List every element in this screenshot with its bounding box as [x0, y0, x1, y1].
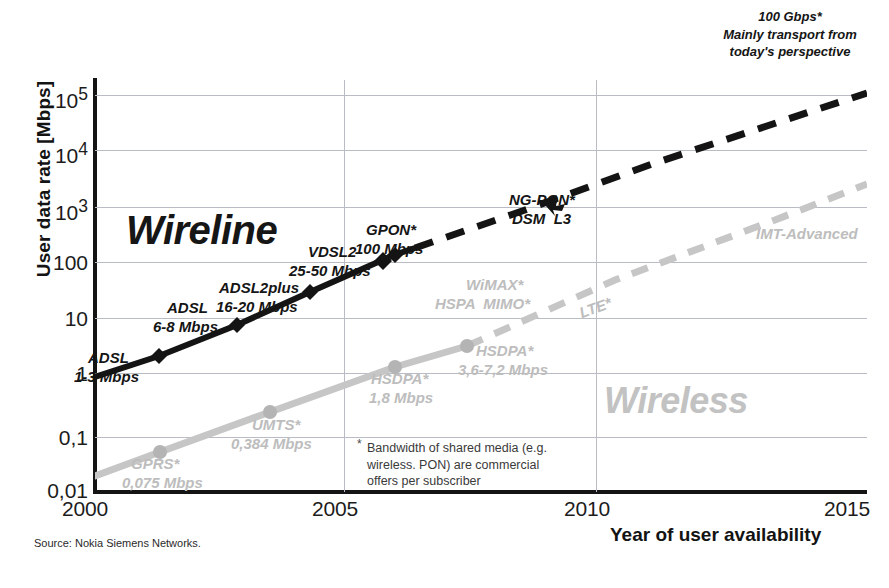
annotation-dsm-name: DSM L3 [512, 210, 571, 228]
x-tick-label-2000: 2000 [62, 497, 108, 521]
annotation-adsl-1-rate: 1-3 Mbps [74, 368, 139, 386]
top-right-line-2: Mainly transport from [700, 26, 880, 44]
annotation-vdsl2-name: VDSL2 [308, 243, 356, 261]
chart-figure: User data rate [Mbps] 105 104 103 100 10… [0, 0, 889, 588]
x-tick-label-2010: 2010 [564, 497, 610, 521]
annotation-gpon-rate: 100 Mbps [355, 240, 423, 258]
y-axis-title: User data rate [Mbps] [33, 29, 55, 329]
y-tick-label-100000: 105 [2, 84, 88, 113]
annotation-gprs-name: GPRS* [131, 455, 179, 473]
annotation-wimax-name: WiMAX* [466, 276, 523, 294]
footnote-asterisk: * [357, 437, 362, 451]
y-tick-label-1000: 103 [2, 196, 88, 225]
top-right-line-1: 100 Gbps* [700, 8, 880, 26]
y-tick-label-100: 100 [2, 251, 88, 275]
x-tick-label-2005: 2005 [312, 497, 358, 521]
annotation-adsl-2-rate: 6-8 Mbps [153, 318, 218, 336]
annotation-vdsl2-rate: 25-50 Mbps [289, 262, 371, 280]
annotation-hsdpa-1-name: HSDPA* [371, 370, 428, 388]
annotation-hspa-mimo-name: HSPA MIMO* [435, 295, 530, 313]
annotation-umts-rate: 0,384 Mbps [231, 435, 312, 453]
source-note: Source: Nokia Siemens Networks. [34, 537, 201, 549]
annotation-adsl2plus-rate: 16-20 Mbps [216, 298, 298, 316]
top-right-annotation: 100 Gbps* Mainly transport from today's … [700, 8, 880, 61]
annotation-umts-name: UMTS* [252, 416, 300, 434]
x-axis-title: Year of user availability [610, 524, 821, 546]
footnote-line-2: wireless. PON) are commercial [367, 457, 565, 474]
annotation-ngpon-name: NG-PON* [509, 191, 575, 209]
annotation-hsdpa-1-rate: 1,8 Mbps [369, 389, 433, 407]
annotation-imt-advanced-name: IMT-Advanced [756, 225, 858, 243]
y-tick-label-10000: 104 [2, 139, 88, 168]
wireless-watermark-label: Wireless [604, 380, 748, 422]
annotation-gpon-name: GPON* [366, 221, 416, 239]
plot-area: ADSL 1-3 Mbps ADSL 6-8 Mbps ADSL2plus 16… [95, 80, 867, 492]
x-tick-label-2015: 2015 [824, 497, 870, 521]
y-tick-label-0-1: 0,1 [2, 426, 88, 450]
marker-adsl-1-3 [151, 348, 167, 364]
annotation-adsl-2-name: ADSL [167, 299, 208, 317]
footnote-line-1: Bandwidth of shared media (e.g. [367, 440, 565, 457]
wireline-watermark-label: Wireline [126, 208, 277, 253]
footnote-line-3: offers per subscriber [367, 473, 565, 490]
annotation-gprs-rate: 0,075 Mbps [122, 474, 203, 492]
y-tick-label-10: 10 [2, 307, 88, 331]
annotation-hsdpa-2-name: HSDPA* [476, 342, 533, 360]
annotation-adsl2plus-name: ADSL2plus [219, 279, 299, 297]
marker-hsdpa-3-6 [460, 339, 474, 353]
annotation-adsl-1-name: ADSL [88, 349, 129, 367]
footnote-box: Bandwidth of shared media (e.g. wireless… [367, 440, 565, 490]
top-right-line-3: today's perspective [700, 43, 880, 61]
annotation-hsdpa-2-rate: 3,6-7,2 Mbps [458, 361, 548, 379]
